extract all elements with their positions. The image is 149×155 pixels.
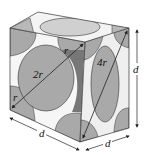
label-d-bottom-right: d — [105, 137, 111, 149]
label-2r: 2r — [33, 68, 44, 80]
fcc-unit-cell-diagram: r 2r 4r r d d d — [0, 0, 149, 155]
left-face — [10, 28, 85, 142]
label-r-top: r — [64, 44, 69, 56]
label-4r: 4r — [97, 56, 108, 68]
label-d-vertical: d — [133, 63, 139, 75]
label-d-bottom-left: d — [39, 127, 45, 139]
label-r-bottom: r — [13, 91, 18, 103]
